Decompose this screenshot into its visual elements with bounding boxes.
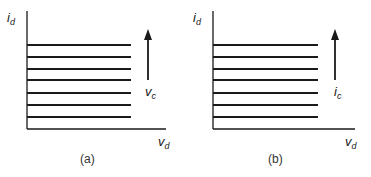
characteristic-curves: [27, 45, 131, 117]
arrow-label: ic: [334, 84, 342, 101]
x-axis-label: vd: [158, 134, 171, 151]
panel-a: id vd vc (a): [7, 10, 171, 166]
figure-canvas: id vd vc (a) id vd ic (b): [0, 0, 371, 177]
panel-caption: (b): [268, 152, 283, 166]
characteristic-curves: [213, 45, 318, 117]
panel-caption: (a): [80, 152, 95, 166]
y-axis-label: id: [7, 10, 16, 27]
arrow-label: vc: [145, 84, 157, 101]
arrow-up-icon: [144, 29, 152, 80]
y-axis-label: id: [193, 10, 202, 27]
x-axis-label: vd: [345, 134, 358, 151]
arrow-up-icon: [331, 29, 339, 80]
panel-b: id vd ic (b): [193, 10, 358, 166]
